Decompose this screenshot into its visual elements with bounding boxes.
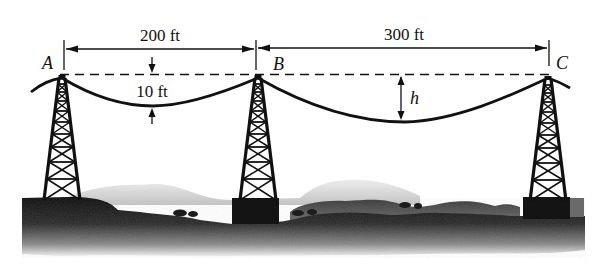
span-dimensions <box>64 40 549 70</box>
tower-a <box>42 75 82 200</box>
point-b-label: B <box>273 54 284 74</box>
ground <box>22 197 585 258</box>
sag-ab-label: 10 ft <box>136 82 168 101</box>
tower-b-base <box>232 198 279 224</box>
tower-b <box>238 75 278 200</box>
span-ab-label: 200 ft <box>140 26 180 45</box>
power-line-diagram: 200 ft 300 ft 10 ft h A B C <box>0 0 613 264</box>
span-bc-label: 300 ft <box>384 25 424 44</box>
sag-bc-dimension <box>398 76 405 120</box>
sag-bc-label: h <box>410 88 419 108</box>
tower-c <box>528 76 568 201</box>
point-a-label: A <box>41 53 54 73</box>
cables <box>31 78 570 122</box>
point-c-label: C <box>556 53 569 73</box>
